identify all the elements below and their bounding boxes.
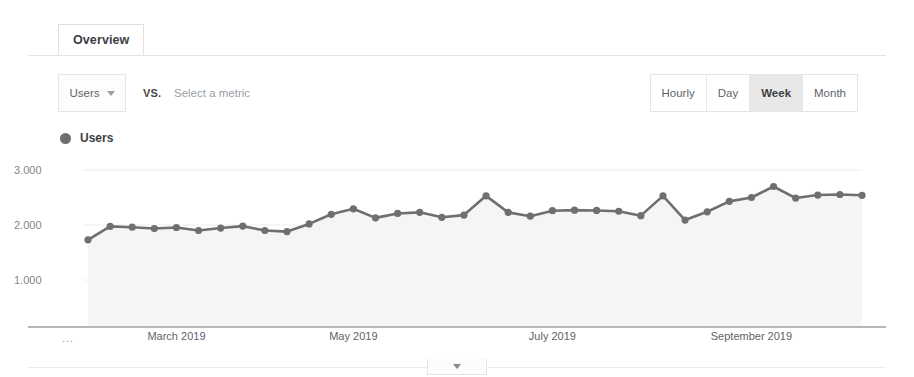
chart-data-point[interactable] [681, 216, 688, 223]
collapse-panel-toggle[interactable] [427, 359, 487, 375]
chart-data-point[interactable] [283, 228, 290, 235]
chart-data-point[interactable] [328, 211, 335, 218]
granularity-option-day[interactable]: Day [707, 75, 750, 111]
chart-data-point[interactable] [151, 225, 158, 232]
chart-data-point[interactable] [460, 212, 467, 219]
chart-data-point[interactable] [239, 223, 246, 230]
secondary-metric-selector[interactable]: Select a metric [174, 87, 250, 99]
vs-label: VS. [143, 87, 161, 99]
chart-data-point[interactable] [770, 183, 777, 190]
tab-overview[interactable]: Overview [58, 24, 144, 55]
chart-data-point[interactable] [593, 207, 600, 214]
primary-metric-dropdown[interactable]: Users [58, 74, 126, 112]
chart-data-point[interactable] [195, 227, 202, 234]
chart-data-point[interactable] [527, 213, 534, 220]
chart-data-point[interactable] [659, 192, 666, 199]
tab-strip: Overview [28, 24, 886, 56]
legend-series-dot-icon [60, 133, 71, 144]
line-chart-svg: 1.0002.0003.000 [0, 155, 914, 340]
chevron-down-icon [107, 91, 115, 96]
chart-data-point[interactable] [836, 191, 843, 198]
x-axis-tick-may: May 2019 [329, 330, 377, 342]
granularity-option-month-label: Month [814, 87, 846, 99]
chart-data-point[interactable] [748, 194, 755, 201]
chart-data-point[interactable] [637, 212, 644, 219]
chart-data-point[interactable] [416, 209, 423, 216]
granularity-option-day-label: Day [718, 87, 738, 99]
tab-strip-rule [28, 55, 886, 56]
chart-data-point[interactable] [261, 227, 268, 234]
chart-data-point[interactable] [814, 191, 821, 198]
chart-data-point[interactable] [726, 198, 733, 205]
svg-text:2.000: 2.000 [14, 219, 42, 231]
chart-data-point[interactable] [173, 224, 180, 231]
svg-text:1.000: 1.000 [14, 274, 42, 286]
chart-x-axis-labels: ... March 2019 May 2019 July 2019 Septem… [0, 330, 914, 350]
x-axis-ellipsis: ... [62, 332, 74, 344]
analytics-overview-panel: Overview Users VS. Select a metric Hourl… [0, 0, 914, 377]
chart-legend: Users [60, 131, 113, 145]
chevron-down-icon [453, 364, 461, 369]
x-axis-tick-july: July 2019 [529, 330, 576, 342]
chart-data-point[interactable] [107, 223, 114, 230]
chart-data-point[interactable] [217, 224, 224, 231]
granularity-option-hourly-label: Hourly [662, 87, 695, 99]
chart-data-point[interactable] [615, 208, 622, 215]
svg-text:3.000: 3.000 [14, 164, 42, 176]
x-axis-tick-march: March 2019 [147, 330, 205, 342]
chart-data-point[interactable] [571, 207, 578, 214]
chart-data-point[interactable] [372, 214, 379, 221]
chart-data-point[interactable] [306, 220, 313, 227]
chart-y-axis-labels: 1.0002.0003.000 [14, 164, 42, 286]
chart-data-point[interactable] [792, 194, 799, 201]
primary-metric-label: Users [69, 87, 99, 99]
legend-series-label: Users [80, 131, 113, 145]
metric-selector-row: Users VS. Select a metric Hourly Day Wee… [58, 74, 886, 114]
x-axis-tick-september: September 2019 [711, 330, 792, 342]
granularity-option-week-label: Week [761, 87, 791, 99]
chart-data-point[interactable] [505, 209, 512, 216]
chart-data-point[interactable] [549, 207, 556, 214]
chart-area-fill [88, 187, 862, 328]
chart-data-point[interactable] [704, 208, 711, 215]
chart-data-point[interactable] [129, 224, 136, 231]
chart-data-point[interactable] [84, 236, 91, 243]
tab-overview-label: Overview [73, 33, 129, 47]
granularity-option-week[interactable]: Week [750, 75, 803, 111]
granularity-option-month[interactable]: Month [803, 75, 857, 111]
granularity-segmented-control: Hourly Day Week Month [650, 74, 859, 112]
chart-data-point[interactable] [394, 210, 401, 217]
chart-data-point[interactable] [858, 192, 865, 199]
chart-data-point[interactable] [482, 192, 489, 199]
granularity-option-hourly[interactable]: Hourly [651, 75, 707, 111]
users-line-chart[interactable]: 1.0002.0003.000 [0, 155, 914, 340]
chart-data-point[interactable] [350, 205, 357, 212]
chart-data-point[interactable] [438, 214, 445, 221]
